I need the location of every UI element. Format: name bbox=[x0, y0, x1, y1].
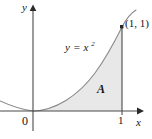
curve-equation-x: x bbox=[84, 41, 89, 53]
area-under-parabola-figure: y x 0 1 (1, 1) y = x 2 A bbox=[0, 0, 152, 139]
curve-equation-label: y = x 2 bbox=[65, 42, 95, 53]
point-label-1-1: (1, 1) bbox=[125, 18, 149, 29]
x-tick-label-1: 1 bbox=[118, 115, 124, 126]
x-axis-label: x bbox=[136, 117, 141, 128]
curve-equation-exponent: 2 bbox=[91, 40, 95, 48]
x-axis-arrowhead bbox=[137, 108, 144, 115]
shaded-region-a bbox=[33, 27, 122, 111]
curve-equation-equals: = bbox=[73, 41, 81, 53]
y-axis-label: y bbox=[22, 2, 27, 13]
point-marker-1-1 bbox=[120, 25, 123, 28]
y-axis-arrowhead bbox=[30, 5, 37, 12]
region-label-a: A bbox=[97, 83, 105, 95]
curve-equation-y: y bbox=[65, 41, 70, 53]
origin-label: 0 bbox=[22, 115, 28, 127]
